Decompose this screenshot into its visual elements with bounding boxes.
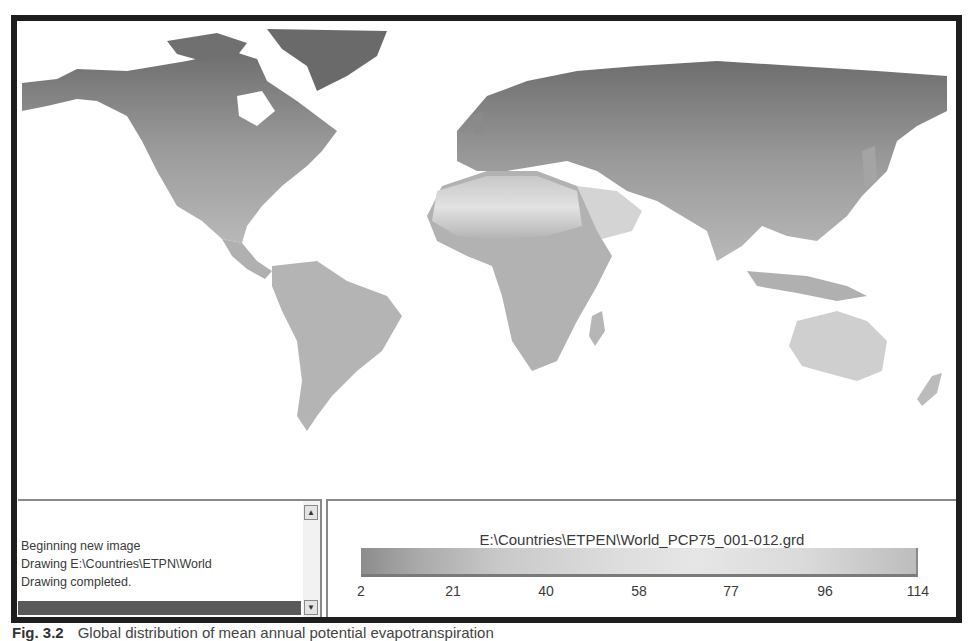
- legend-tick: 21: [445, 583, 461, 599]
- arrow-up-icon: ▲: [307, 508, 315, 517]
- arrow-down-icon: ▼: [307, 603, 315, 612]
- log-panel: Beginning new image Drawing E:\Countries…: [18, 499, 322, 617]
- legend-tick: 58: [631, 583, 647, 599]
- legend-title: E:\Countries\ETPEN\World_PCP75_001-012.g…: [328, 531, 956, 548]
- map-canvas[interactable]: [17, 21, 956, 499]
- scroll-down-button[interactable]: ▼: [304, 600, 318, 615]
- legend-tick: 114: [907, 583, 929, 599]
- world-map: [17, 21, 956, 499]
- log-scrollbar[interactable]: ▲ ▼: [303, 501, 320, 617]
- app-window: Beginning new image Drawing E:\Countries…: [11, 15, 962, 623]
- legend-ticks: 2 21 40 58 77 96 114: [328, 583, 956, 603]
- figure-caption: Fig. 3.2Global distribution of mean annu…: [12, 624, 494, 641]
- figure-label: Fig. 3.2: [12, 624, 64, 641]
- legend-tick: 40: [538, 583, 554, 599]
- legend-tick: 96: [817, 583, 833, 599]
- legend-color-bar: [361, 548, 918, 577]
- legend-tick: 77: [723, 583, 739, 599]
- log-line: Drawing E:\Countries\ETPN\World: [21, 555, 301, 573]
- scroll-up-button[interactable]: ▲: [304, 505, 318, 520]
- legend-panel: E:\Countries\ETPEN\World_PCP75_001-012.g…: [326, 499, 956, 617]
- log-line: Drawing completed.: [21, 573, 301, 591]
- log-selected-row[interactable]: [18, 601, 301, 615]
- figure-caption-text: Global distribution of mean annual poten…: [78, 624, 494, 641]
- log-line: Beginning new image: [21, 537, 301, 555]
- log-list: Beginning new image Drawing E:\Countries…: [21, 537, 301, 591]
- legend-tick: 2: [357, 583, 365, 599]
